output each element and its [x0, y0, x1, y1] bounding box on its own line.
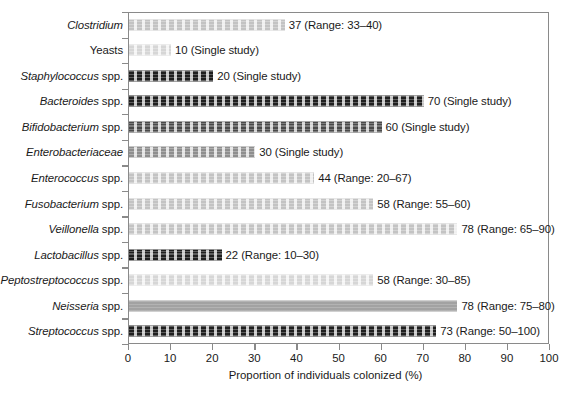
- bar-value-label: 20 (Single study): [217, 70, 301, 82]
- bar-track: [129, 249, 222, 260]
- category-suffix: spp.: [99, 70, 123, 82]
- x-axis-tick-label: 50: [332, 352, 345, 364]
- y-axis-tick: [122, 38, 128, 39]
- category-suffix: spp.: [99, 274, 123, 286]
- bar-track: [129, 172, 314, 183]
- bar-row: Streptococcus spp.73 (Range: 50–100): [0, 318, 571, 344]
- y-axis-tick: [122, 267, 128, 268]
- x-axis-tick: [507, 344, 508, 350]
- y-axis-tick: [122, 318, 128, 319]
- bar: [129, 19, 285, 30]
- bar-row: Staphylococcus spp.20 (Single study): [0, 63, 571, 89]
- bar-track: [129, 275, 373, 286]
- category-label: Staphylococcus spp.: [20, 70, 123, 82]
- category-suffix: spp.: [99, 95, 123, 107]
- category-label: Enterobacteriaceae: [26, 146, 123, 158]
- category-genus: Lactobacillus: [34, 249, 99, 261]
- bar: [129, 96, 424, 107]
- bar-track: [129, 198, 373, 209]
- category-label: Neisseria spp.: [52, 300, 123, 312]
- bar: [129, 70, 213, 81]
- bar-row: Fusobacterium spp.58 (Range: 55–60): [0, 191, 571, 217]
- bar-track: [129, 147, 255, 158]
- category-genus: Fusobacterium: [25, 198, 99, 210]
- bar-track: [129, 96, 424, 107]
- y-axis-tick: [122, 165, 128, 166]
- bar-row: Enterobacteriaceae30 (Single study): [0, 140, 571, 166]
- x-axis-title: Proportion of individuals colonized (%): [0, 369, 571, 381]
- category-genus: Bacteroides: [40, 95, 99, 107]
- bar-row: Clostridium37 (Range: 33–40): [0, 12, 571, 38]
- category-suffix: spp.: [99, 172, 123, 184]
- category-suffix: spp.: [99, 249, 123, 261]
- x-axis-tick-label: 30: [248, 352, 261, 364]
- y-axis-tick: [122, 293, 128, 294]
- x-axis-tick: [212, 344, 213, 350]
- bar: [129, 300, 457, 311]
- bar-row: Yeasts10 (Single study): [0, 38, 571, 64]
- x-axis-tick-label: 20: [206, 352, 219, 364]
- category-suffix: spp.: [99, 223, 123, 235]
- category-genus: Peptostreptococcus: [1, 274, 99, 286]
- bar-track: [129, 326, 436, 337]
- bar-value-label: 70 (Single study): [428, 95, 512, 107]
- bar-row: Bacteroides spp.70 (Single study): [0, 89, 571, 115]
- category-label: Bifidobacterium spp.: [22, 121, 123, 133]
- bar: [129, 147, 255, 158]
- bar: [129, 45, 171, 56]
- y-axis-tick: [122, 216, 128, 217]
- bar-track: [129, 45, 171, 56]
- category-genus: Streptococcus: [28, 325, 99, 337]
- bar-value-label: 58 (Range: 30–85): [377, 274, 470, 286]
- category-suffix: spp.: [99, 121, 123, 133]
- bar: [129, 198, 373, 209]
- category-genus: Veillonella: [48, 223, 98, 235]
- bar-track: [129, 300, 457, 311]
- x-axis-tick-label: 60: [374, 352, 387, 364]
- bar-value-label: 30 (Single study): [259, 146, 343, 158]
- bar-value-label: 78 (Range: 75–80): [461, 300, 554, 312]
- bar-row: Bifidobacterium spp.60 (Single study): [0, 114, 571, 140]
- bar-value-label: 10 (Single study): [175, 44, 259, 56]
- x-axis-tick: [254, 344, 255, 350]
- y-axis-tick: [122, 12, 128, 13]
- x-axis-tick-label: 80: [458, 352, 471, 364]
- x-axis-tick: [465, 344, 466, 350]
- x-axis-tick: [423, 344, 424, 350]
- bar: [129, 121, 382, 132]
- bar-chart-figure: Clostridium37 (Range: 33–40)Yeasts10 (Si…: [0, 0, 571, 394]
- x-axis-tick-label: 90: [501, 352, 514, 364]
- bar-value-label: 22 (Range: 10–30): [226, 249, 319, 261]
- category-label: Clostridium: [67, 19, 123, 31]
- category-suffix: spp.: [99, 325, 123, 337]
- category-suffix: spp.: [99, 300, 123, 312]
- x-axis-tick-label: 40: [290, 352, 303, 364]
- x-axis-tick-label: 0: [125, 352, 131, 364]
- bar-value-label: 78 (Range: 65–90): [461, 223, 554, 235]
- y-axis-tick: [122, 140, 128, 141]
- bar-row: Peptostreptococcus spp.58 (Range: 30–85): [0, 267, 571, 293]
- category-label: Fusobacterium spp.: [25, 198, 123, 210]
- bar-value-label: 58 (Range: 55–60): [377, 198, 470, 210]
- bar-row: Neisseria spp.78 (Range: 75–80): [0, 293, 571, 319]
- x-axis-tick: [296, 344, 297, 350]
- bar-value-label: 73 (Range: 50–100): [440, 325, 540, 337]
- category-genus: Neisseria: [52, 300, 99, 312]
- category-genus: Bifidobacterium: [22, 121, 99, 133]
- y-axis-tick: [122, 89, 128, 90]
- bar-value-label: 37 (Range: 33–40): [289, 19, 382, 31]
- category-label: Peptostreptococcus spp.: [1, 274, 123, 286]
- bar: [129, 172, 314, 183]
- y-axis-tick: [122, 242, 128, 243]
- bar: [129, 326, 436, 337]
- bar: [129, 224, 457, 235]
- bar-row: Lactobacillus spp.22 (Range: 10–30): [0, 242, 571, 268]
- x-axis-tick: [128, 344, 129, 350]
- y-axis-tick: [122, 191, 128, 192]
- category-label: Yeasts: [90, 44, 123, 56]
- category-genus: Enterococcus: [31, 172, 99, 184]
- category-label: Enterococcus spp.: [31, 172, 123, 184]
- bar: [129, 249, 222, 260]
- x-axis-tick-label: 70: [416, 352, 429, 364]
- x-axis-tick: [170, 344, 171, 350]
